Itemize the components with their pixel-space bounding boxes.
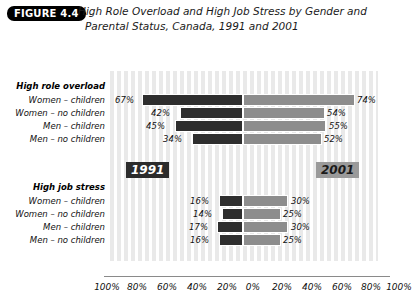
bar-2001-stress-men-children (243, 221, 288, 233)
bar-2001-overload-women-children (243, 94, 355, 106)
bar-1991-stress-men-no-children (219, 234, 243, 246)
bar-1991-stress-men-children (217, 221, 243, 233)
bar-2001-overload-men-children (243, 120, 326, 132)
value-label-1991-stress-men-children: 17% (178, 221, 208, 233)
group-heading-job-stress: High job stress (0, 182, 105, 192)
x-axis-line (104, 276, 390, 277)
x-axis-tick-labels: 100% 80% 60% 40% 20% 0% 20% 40% 60% 80% … (0, 281, 412, 295)
value-label-1991-stress-men-no-children: 16% (179, 234, 209, 246)
value-label-2001-overload-men-children: 55% (329, 120, 359, 132)
value-label-2001-stress-women-no-children: 25% (283, 208, 313, 220)
bar-1991-stress-women-children (219, 195, 243, 207)
bar-row-overload-women-children: 67% 74% (0, 94, 412, 106)
bar-row-stress-men-children: 17% 30% (0, 221, 412, 233)
value-label-1991-stress-women-children: 16% (179, 195, 209, 207)
group-heading-role-overload: High role overload (0, 81, 105, 91)
value-label-2001-overload-women-no-children: 54% (327, 107, 357, 119)
bar-2001-stress-men-no-children (243, 234, 281, 246)
value-label-1991-overload-women-children: 67% (104, 94, 134, 106)
bar-1991-overload-women-no-children (180, 107, 244, 119)
bar-row-stress-women-no-children: 14% 25% (0, 208, 412, 220)
legend-chip-1991: 1991 (126, 162, 169, 178)
value-label-1991-overload-men-no-children: 34% (152, 133, 182, 145)
figure-header: FIGURE 4.4 High Role Overload and High J… (0, 0, 412, 62)
figure-number-badge: FIGURE 4.4 (7, 6, 86, 21)
legend-chip-2001: 2001 (316, 162, 359, 178)
bar-row-overload-men-children: 45% 55% (0, 120, 412, 132)
bar-row-stress-men-no-children: 16% 25% (0, 234, 412, 246)
value-label-1991-overload-women-no-children: 42% (140, 107, 170, 119)
bar-2001-stress-women-children (243, 195, 288, 207)
bar-2001-overload-women-no-children (243, 107, 325, 119)
value-label-1991-overload-men-children: 45% (135, 120, 165, 132)
bar-row-overload-women-no-children: 42% 54% (0, 107, 412, 119)
bar-1991-overload-men-no-children (192, 133, 243, 145)
bar-1991-stress-women-no-children (222, 208, 243, 220)
figure-title-line-1: High Role Overload and High Job Stress b… (78, 4, 398, 19)
value-label-2001-stress-women-children: 30% (291, 195, 321, 207)
bar-row-overload-men-no-children: 34% 52% (0, 133, 412, 145)
value-label-2001-overload-men-no-children: 52% (324, 133, 354, 145)
figure-title-line-2: Parental Status, Canada, 1991 and 2001 (78, 19, 398, 34)
figure-title: High Role Overload and High Job Stress b… (78, 4, 398, 34)
x-tick-pos-100: 100% (379, 281, 412, 293)
chart-area: High role overload Women – children Wome… (0, 62, 412, 307)
bar-1991-overload-men-children (175, 120, 243, 132)
value-label-2001-overload-women-children: 74% (357, 94, 387, 106)
value-label-1991-stress-women-no-children: 14% (182, 208, 212, 220)
value-label-2001-stress-men-no-children: 25% (283, 234, 313, 246)
bar-1991-overload-women-children (142, 94, 243, 106)
value-label-2001-stress-men-children: 30% (291, 221, 321, 233)
bar-2001-overload-men-no-children (243, 133, 322, 145)
bar-row-stress-women-children: 16% 30% (0, 195, 412, 207)
bar-2001-stress-women-no-children (243, 208, 281, 220)
